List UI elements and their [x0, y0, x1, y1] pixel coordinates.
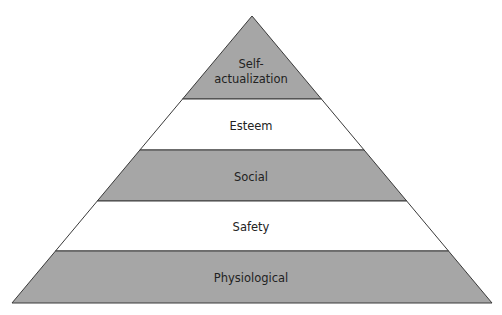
label-physiological: Physiological [214, 271, 289, 285]
label-self-actualization-line2: actualization [214, 72, 288, 86]
label-safety: Safety [233, 220, 270, 234]
label-social: Social [234, 170, 268, 184]
label-esteem: Esteem [229, 119, 272, 133]
label-self-actualization-line1: Self- [238, 57, 263, 71]
pyramid-diagram: Self- actualization Esteem Social Safety… [0, 0, 502, 315]
